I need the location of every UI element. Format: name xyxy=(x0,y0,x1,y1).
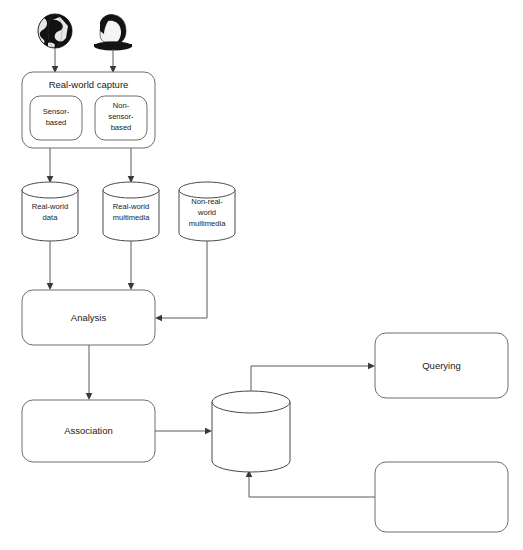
node-real-world-multimedia[interactable]: Real-world multimedia xyxy=(103,182,159,241)
edge-multimedia-to-analysis xyxy=(128,240,135,290)
node-real-world-capture-label: Real-world capture xyxy=(49,79,129,90)
node-non-sensor-based[interactable]: Non- sensor- based xyxy=(95,96,147,140)
node-real-world-multimedia-label-line-1: Real-world xyxy=(113,202,149,211)
node-non-real-world-multimedia-label-line-2: world xyxy=(197,208,216,217)
node-analysis[interactable]: Analysis xyxy=(22,290,155,345)
node-real-world-data-label-line-1: Real-world xyxy=(32,202,68,211)
edge-sensor-to-data xyxy=(47,148,54,183)
node-association-label: Association xyxy=(64,425,113,436)
node-retrieval-label: Querying xyxy=(422,360,461,371)
edge-data-to-analysis xyxy=(47,240,54,290)
node-real-world-multimedia-resource[interactable] xyxy=(212,391,290,472)
diagram-canvas: Real-world capture Sensor- based Non- se… xyxy=(0,0,523,550)
node-retrieval[interactable]: Querying xyxy=(375,333,508,398)
edge-analysis-to-association xyxy=(86,345,93,400)
node-sensor-based-label-line-1: Sensor- xyxy=(43,107,70,116)
edge-association-to-resource xyxy=(155,428,212,435)
node-real-world-data[interactable]: Real-world data xyxy=(22,182,78,241)
node-real-world-multimedia-label-line-2: multimedia xyxy=(113,213,150,222)
globe-icon xyxy=(37,14,72,48)
node-sensor-based[interactable]: Sensor- based xyxy=(30,96,82,140)
edge-nonrealworld-to-analysis xyxy=(155,240,207,321)
node-non-real-world-multimedia[interactable]: Non-real- world multimedia xyxy=(179,182,235,241)
flowchart-svg: Real-world capture Sensor- based Non- se… xyxy=(0,0,523,550)
node-non-real-world-multimedia-label-line-1: Non-real- xyxy=(191,197,223,206)
node-sensor-based-label-line-2: based xyxy=(46,118,67,127)
node-non-sensor-based-label-line-1: Non- xyxy=(113,101,130,110)
node-non-sensor-based-label-line-3: based xyxy=(111,123,132,132)
edge-globe-to-capture xyxy=(52,48,59,73)
person-icon xyxy=(94,14,132,50)
node-non-real-world-multimedia-label-line-3: multimedia xyxy=(189,219,226,228)
node-non-sensor-based-label-line-2: sensor- xyxy=(108,112,134,121)
edge-person-to-capture xyxy=(110,49,117,73)
edge-querying-to-resource xyxy=(246,470,375,497)
node-querying[interactable] xyxy=(375,462,508,532)
node-real-world-data-label-line-2: data xyxy=(43,213,59,222)
edge-nonsensor-to-multimedia xyxy=(128,148,135,183)
node-analysis-label: Analysis xyxy=(71,312,107,323)
node-association[interactable]: Association xyxy=(22,400,155,462)
